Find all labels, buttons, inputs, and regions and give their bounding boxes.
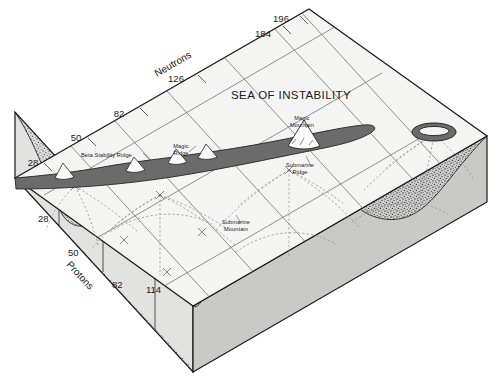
neutron-tick-28: 28 — [28, 157, 39, 168]
neutron-tick-126: 126 — [168, 73, 184, 84]
neutron-tick-82: 82 — [114, 108, 125, 119]
proton-tick-82: 82 — [112, 279, 123, 290]
proton-tick-114: 114 — [146, 284, 161, 295]
label-submarine-ridge-line2: Ridge — [292, 169, 307, 175]
label-magic-mountain-line2: Mountain — [290, 122, 314, 128]
label-magic-ridge-line2: Ridge — [173, 150, 188, 156]
label-submarine-ridge-line1: Submarine — [286, 162, 314, 168]
neutron-tick-184: 184 — [255, 28, 271, 39]
proton-tick-28: 28 — [38, 213, 49, 224]
neutron-tick-196: 196 — [273, 13, 289, 24]
label-submarine-mountain-line2: Mountain — [224, 226, 248, 232]
label-magic-ridge-line1: Magic — [173, 143, 189, 149]
label-submarine-mountain-line1: Submarine — [222, 219, 250, 225]
sea-of-instability-title: SEA OF INSTABILITY — [231, 89, 351, 101]
label-magic-mountain-line1: Magic — [294, 115, 310, 121]
nuclear-landscape-figure: Neutrons 28 50 82 126 184 196 Protons 28… — [0, 0, 502, 379]
protons-axis-title: Protons — [65, 259, 97, 292]
neutron-tick-50: 50 — [71, 132, 82, 143]
proton-tick-50: 50 — [68, 247, 79, 258]
island-of-stability-ring — [412, 123, 456, 141]
label-beta-stability-ridge: Beta Stability Ridge — [81, 152, 132, 158]
block-diagram-svg: Neutrons 28 50 82 126 184 196 Protons 28… — [0, 0, 502, 379]
